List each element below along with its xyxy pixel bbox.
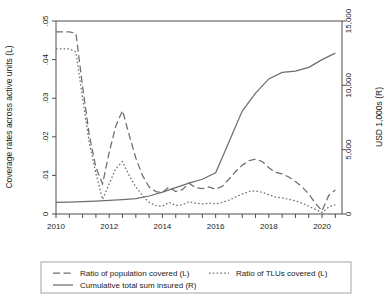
y-right-tick-label: 0	[344, 211, 353, 216]
x-axis: 201020122014201620182020	[47, 214, 335, 231]
y-axis-right: 05,00010,00015,000	[342, 8, 353, 216]
legend-label: Cumulative total sum insured (R)	[80, 281, 197, 290]
chart-legend: Ratio of population covered (L)Ratio of …	[41, 262, 351, 293]
series-path-solid	[56, 53, 335, 202]
y-axis-left: 0.01.02.03.04.05	[41, 15, 56, 216]
x-tick-label: 2020	[313, 222, 331, 231]
y-left-tick-label: .03	[41, 92, 50, 104]
x-tick-label: 2016	[207, 222, 225, 231]
series-path-dotted	[56, 49, 335, 213]
chart-svg: 201020122014201620182020 0.01.02.03.04.0…	[0, 0, 390, 301]
series-lines	[56, 32, 335, 213]
y-right-tick-label: 15,000	[344, 8, 353, 33]
chart-figure: 201020122014201620182020 0.01.02.03.04.0…	[0, 0, 390, 301]
x-tick-label: 2010	[47, 222, 65, 231]
y-axis-right-title: USD 1,000s (R)	[374, 87, 384, 147]
y-left-tick-label: .02	[41, 131, 50, 143]
y-right-tick-label: 5,000	[344, 139, 353, 160]
y-axis-left-title: Coverage rates across active units (L)	[4, 45, 14, 188]
series-path-dashed	[56, 32, 335, 211]
y-left-tick-label: .01	[41, 169, 50, 181]
y-left-tick-label: .05	[41, 15, 50, 27]
y-left-tick-label: .04	[41, 53, 50, 65]
x-tick-label: 2012	[100, 222, 118, 231]
y-left-tick-label: 0	[41, 211, 50, 216]
x-tick-label: 2018	[260, 222, 278, 231]
legend-label: Ratio of population covered (L)	[80, 269, 190, 278]
legend-label: Ratio of TLUs covered (L)	[236, 269, 328, 278]
y-right-tick-label: 10,000	[344, 73, 353, 98]
x-tick-label: 2014	[154, 222, 172, 231]
